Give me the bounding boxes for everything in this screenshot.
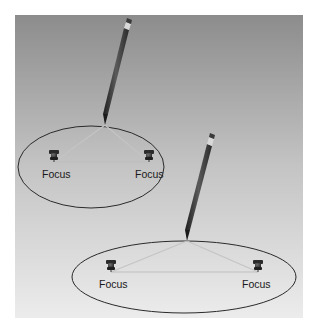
focus-label: Focus: [135, 168, 164, 180]
focus-label: Focus: [242, 278, 271, 290]
focus-label: Focus: [42, 168, 71, 180]
ellipse-diagram: Focus Focus Focus Focus: [0, 0, 316, 331]
focus-label: Focus: [99, 278, 128, 290]
